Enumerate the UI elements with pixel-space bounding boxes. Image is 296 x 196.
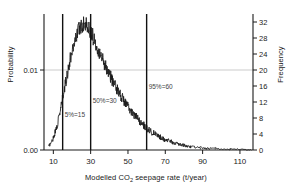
- x-tick-label-2: 50: [124, 157, 133, 166]
- y-axis-right-title: Frequency: [276, 33, 285, 97]
- y-tick-label-right-0: 0: [259, 146, 263, 155]
- y-tick-label-right-6: 24: [259, 50, 267, 59]
- y-tick-label-right-5: 20: [259, 66, 267, 75]
- tail-speck-3: [230, 148, 231, 149]
- x-axis-title: Modelled CO2 seepage rate (t/year): [44, 173, 248, 182]
- x-tick-label-0: 10: [49, 157, 58, 166]
- tail-speck-0: [200, 148, 201, 149]
- y-tick-label-right-1: 4: [259, 130, 263, 139]
- y-axis-left-title: Probability: [6, 33, 15, 97]
- chart-figure: 0.000.0104812162024283210305070901105%=1…: [0, 0, 296, 196]
- y-tick-label-right-7: 28: [259, 34, 267, 43]
- y-tick-label-right-3: 12: [259, 98, 267, 107]
- x-axis-title-subscript: 2: [130, 177, 133, 183]
- x-tick-label-1: 30: [86, 157, 95, 166]
- tail-speck-1: [205, 148, 206, 149]
- tail-speck-2: [215, 148, 216, 149]
- x-tick-label-3: 70: [161, 157, 170, 166]
- percentile-label-50: 50%=30: [93, 97, 117, 104]
- y-tick-label-left-1: 0.01: [23, 66, 38, 75]
- percentile-label-95: 95%=60: [149, 83, 173, 90]
- x-tick-label-5: 110: [234, 157, 247, 166]
- percentile-label-5: 5%=15: [65, 111, 86, 118]
- distribution-plot: 0.000.0104812162024283210305070901105%=1…: [0, 0, 296, 196]
- y-tick-label-right-4: 16: [259, 82, 267, 91]
- x-tick-label-4: 90: [198, 157, 207, 166]
- y-tick-label-right-2: 8: [259, 114, 263, 123]
- x-axis-title-suffix: seepage rate (t/year): [133, 173, 207, 182]
- y-tick-label-right-8: 32: [259, 18, 267, 27]
- y-tick-label-left-0: 0.00: [23, 146, 38, 155]
- x-axis-title-prefix: Modelled CO: [85, 173, 130, 182]
